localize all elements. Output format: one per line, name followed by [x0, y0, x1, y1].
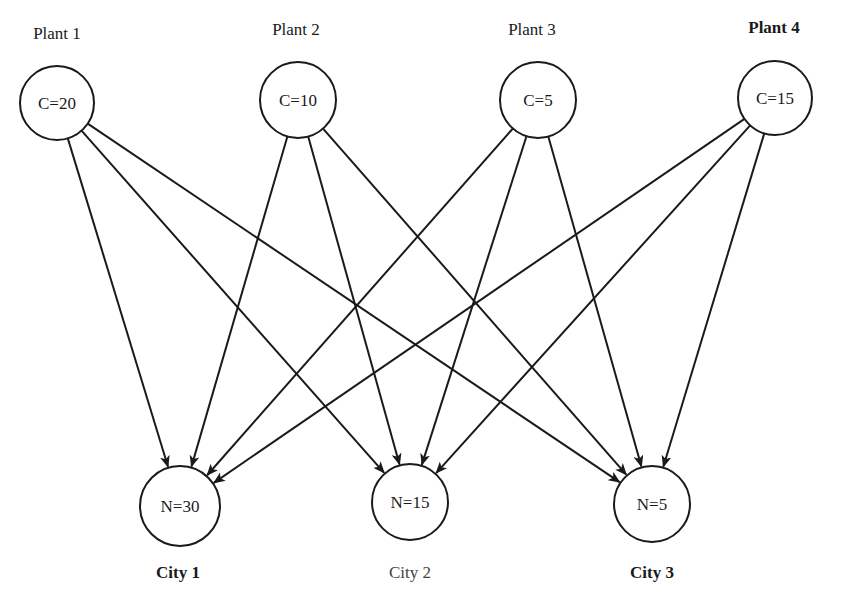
plant-label-3: Plant 3 [508, 20, 556, 40]
city-node-2: N=15 [372, 464, 448, 540]
plant-label-2: Plant 2 [272, 20, 320, 40]
edge-plant3-city3 [548, 137, 641, 467]
nodes-layer: C=20C=10C=5C=15N=30N=15N=5 [20, 61, 812, 546]
plant-node-1: C=20 [20, 66, 94, 140]
city-node-1: N=30 [140, 466, 220, 546]
plant-label-4: Plant 4 [748, 18, 799, 38]
edge-plant2-city2 [308, 137, 399, 465]
edges-layer [68, 119, 764, 483]
edge-plant2-city1 [191, 136, 287, 466]
plant-node-2: C=10 [260, 62, 336, 138]
capacity-value: C=20 [38, 94, 76, 113]
plant-label-1: Plant 1 [33, 24, 81, 44]
demand-value: N=5 [637, 495, 667, 514]
city-label-3: City 3 [630, 563, 674, 583]
edge-plant4-city1 [214, 119, 745, 483]
demand-value: N=15 [391, 493, 430, 512]
edge-plant4-city3 [663, 133, 764, 466]
plant-node-3: C=5 [500, 62, 576, 138]
capacity-value: C=15 [756, 89, 794, 108]
city-label-2: City 2 [389, 563, 431, 583]
edge-plant3-city1 [207, 129, 513, 476]
transport-network-diagram: C=20C=10C=5C=15N=30N=15N=5 [0, 0, 841, 598]
plant-node-4: C=15 [738, 61, 812, 135]
city-label-1: City 1 [156, 563, 200, 583]
capacity-value: C=5 [523, 91, 552, 110]
edge-plant3-city2 [422, 136, 527, 465]
demand-value: N=30 [161, 497, 200, 516]
edge-plant1-city1 [68, 138, 168, 466]
edge-plant1-city2 [82, 131, 385, 473]
capacity-value: C=10 [279, 91, 317, 110]
city-node-3: N=5 [614, 466, 690, 542]
